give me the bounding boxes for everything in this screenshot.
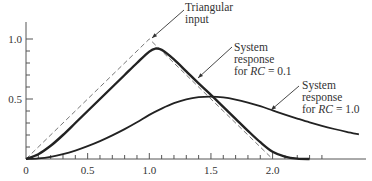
leader-line — [271, 86, 299, 110]
annotation-line: response — [234, 53, 292, 65]
x-tick-label: 0.5 — [81, 164, 95, 176]
x-tick-label: 0 — [23, 164, 29, 176]
annotation-triangular-input: Triangular input — [185, 1, 233, 25]
y-tick-label: 0.5 — [8, 93, 22, 105]
annotation-response-rc-0-1: System response for RC = 0.1 — [234, 41, 292, 77]
leader-line — [152, 10, 184, 38]
x-tick-label: 1.0 — [142, 164, 156, 176]
annotation-line: for RC = 0.1 — [234, 65, 292, 77]
annotation-line: input — [185, 13, 233, 25]
y-tick-label: 1.0 — [8, 33, 22, 45]
leader-line — [198, 47, 232, 78]
annotation-response-rc-1-0: System response for RC = 1.0 — [302, 79, 360, 115]
annotation-line: Triangular — [185, 1, 233, 13]
annotation-line: System — [302, 79, 360, 91]
x-tick-label: 1.5 — [204, 164, 218, 176]
annotation-line: response — [302, 91, 360, 103]
annotation-line: System — [234, 41, 292, 53]
x-tick-label: 2.0 — [266, 164, 280, 176]
annotation-line: for RC = 1.0 — [302, 103, 360, 115]
